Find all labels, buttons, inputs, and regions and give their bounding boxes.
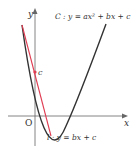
line-equation-label: l : y = bx + c xyxy=(47,133,97,142)
curve-equation-label: C : y = ax² + bx + c xyxy=(55,12,131,21)
y-axis-label: y xyxy=(27,9,34,19)
intercept-point xyxy=(33,70,36,73)
diagram-canvas: y x O c C : y = ax² + bx + c l : y = bx … xyxy=(0,0,135,146)
x-axis-label: x xyxy=(124,118,129,128)
intercept-label: c xyxy=(38,68,43,77)
origin-label: O xyxy=(25,118,32,128)
y-axis-arrow-icon xyxy=(33,8,38,14)
